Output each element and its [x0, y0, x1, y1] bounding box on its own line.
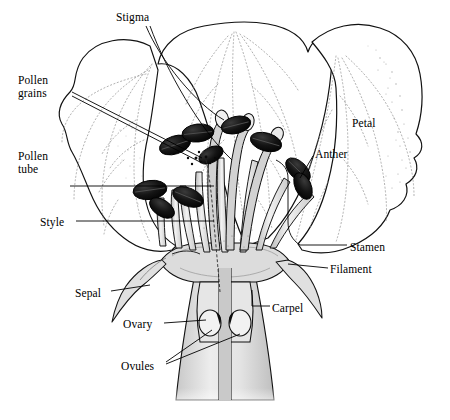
label-pollen-tube: Pollen tube	[18, 150, 48, 175]
label-ovary: Ovary	[123, 318, 152, 331]
botanical-diagram: Stigma Pollen grains Pollen tube Style S…	[0, 0, 450, 420]
label-pollen-grains: Pollen grains	[18, 74, 48, 99]
label-carpel: Carpel	[272, 302, 303, 315]
label-anther: Anther	[315, 148, 348, 161]
flower-illustration	[0, 0, 450, 420]
sepal-left	[112, 260, 166, 322]
label-ovules: Ovules	[121, 360, 154, 373]
label-filament: Filament	[330, 263, 372, 276]
label-stigma: Stigma	[116, 11, 149, 24]
label-petal: Petal	[352, 117, 376, 130]
label-sepal: Sepal	[75, 287, 101, 300]
label-stamen: Stamen	[350, 241, 385, 254]
label-style: Style	[40, 216, 64, 229]
